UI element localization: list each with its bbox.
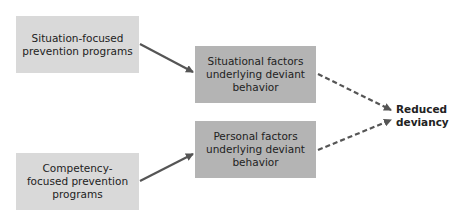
node-situation-focused-programs: Situation-focused prevention programs xyxy=(16,16,139,73)
node-label: Situation-focused prevention programs xyxy=(22,32,133,58)
node-label: Situational factors underlying deviant b… xyxy=(201,55,310,94)
dashed-arrow-situational-to-outcome xyxy=(318,74,391,110)
arrow-competency-to-personal xyxy=(140,154,193,181)
node-label: Reduced deviancy xyxy=(396,103,449,128)
node-competency-focused-programs: Competency-focused prevention programs xyxy=(16,153,139,210)
dashed-arrow-personal-to-outcome xyxy=(318,120,391,150)
node-personal-factors: Personal factors underlying deviant beha… xyxy=(195,121,316,178)
node-situational-factors: Situational factors underlying deviant b… xyxy=(195,46,316,103)
node-reduced-deviancy: Reduced deviancy xyxy=(396,103,452,129)
node-label: Competency-focused prevention programs xyxy=(22,162,133,201)
arrow-situation-to-situational xyxy=(140,44,193,72)
node-label: Personal factors underlying deviant beha… xyxy=(201,130,310,169)
